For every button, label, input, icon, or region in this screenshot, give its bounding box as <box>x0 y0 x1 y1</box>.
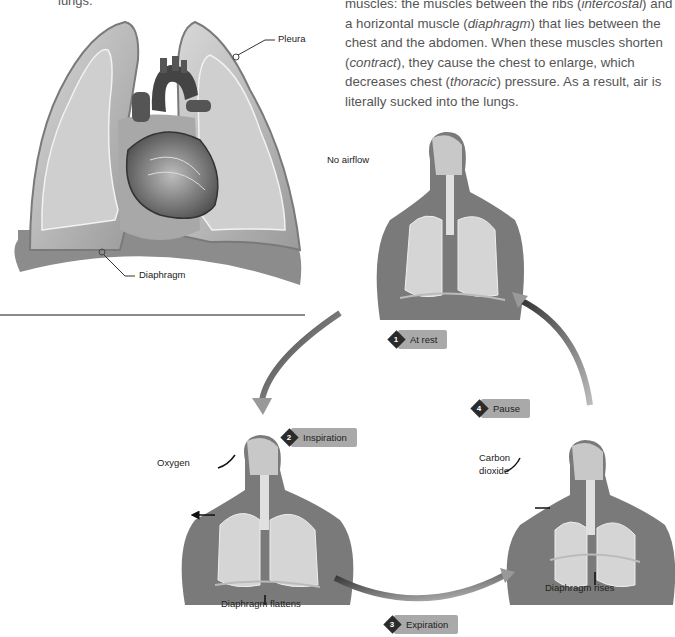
callout-carbon-dioxide: Carbon dioxide <box>479 451 510 477</box>
step-badge-pause: 4 Pause <box>473 399 530 418</box>
callout-no-airflow: No airflow <box>327 154 369 165</box>
cycle-arrows <box>0 0 675 637</box>
step-badge-at-rest: 1 At rest <box>390 330 447 349</box>
step-badge-inspiration: 2 Inspiration <box>283 428 357 447</box>
step-badge-expiration: 3 Expiration <box>386 615 458 634</box>
callout-oxygen: Oxygen <box>157 457 190 468</box>
callout-diaphragm-flattens: Diaphragm flattens <box>221 598 301 609</box>
callout-diaphragm-rises: Diaphragm rises <box>545 582 614 593</box>
